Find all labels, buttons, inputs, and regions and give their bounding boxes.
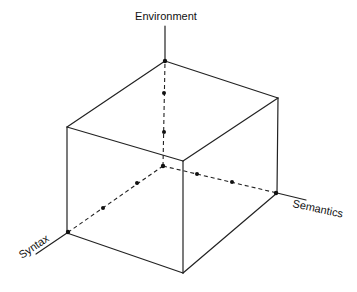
syntax-label: Syntax — [16, 232, 51, 261]
axis-tick-dots — [66, 59, 278, 234]
origin-dot — [161, 164, 165, 168]
environment-dot-2 — [162, 91, 166, 95]
edge-right-vertical — [277, 98, 278, 193]
semantics-dot-end — [274, 191, 278, 195]
syntax-dot-1 — [135, 181, 139, 185]
edge-top-front-right — [183, 98, 278, 161]
environment-dot-end — [163, 59, 167, 63]
semantics-axis-dashed — [163, 166, 277, 193]
environment-label: Environment — [135, 10, 197, 22]
syntax-dot-end — [66, 230, 70, 234]
syntax-dot-2 — [101, 206, 105, 210]
edge-top-back-left — [67, 61, 165, 127]
cube-diagram: Environment Semantics Syntax — [0, 0, 357, 292]
edge-bottom-front-left — [67, 233, 183, 273]
edge-top-back-right — [165, 61, 278, 98]
environment-dot-1 — [162, 130, 166, 134]
semantics-dot-1 — [195, 172, 199, 176]
semantics-label: Semantics — [292, 197, 345, 220]
edge-bottom-front-right — [183, 193, 277, 273]
environment-axis-dashed — [163, 61, 165, 166]
syntax-axis-dashed — [67, 166, 163, 233]
cube-edges — [67, 61, 278, 273]
semantics-dot-2 — [230, 180, 234, 184]
